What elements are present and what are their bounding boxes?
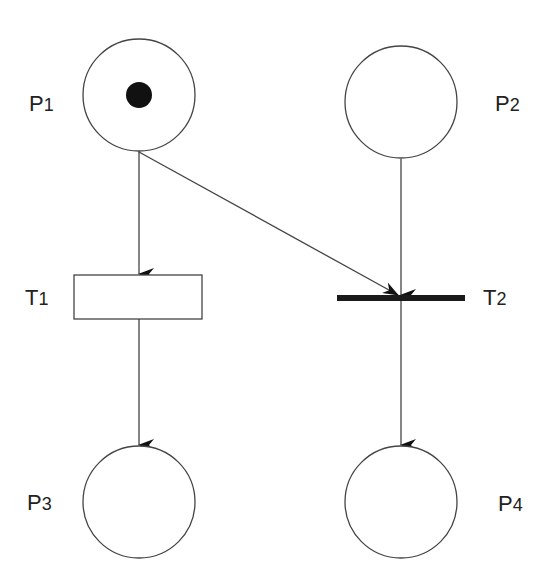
- place-p3[interactable]: [83, 446, 195, 558]
- token-icon: [126, 82, 152, 108]
- petri-net-diagram: P1 P2 T1 T2 P3 P4: [0, 0, 551, 582]
- place-p2[interactable]: [345, 46, 457, 158]
- place-p1[interactable]: [83, 39, 195, 151]
- label-p2: P2: [495, 91, 520, 116]
- place-p4[interactable]: [345, 446, 457, 558]
- transition-t1[interactable]: [74, 275, 202, 319]
- arc-p1-t2: [139, 152, 398, 295]
- label-t1: T1: [25, 285, 48, 310]
- transition-t2[interactable]: [337, 295, 465, 301]
- label-p3: P3: [27, 490, 52, 515]
- label-p1: P1: [29, 91, 54, 116]
- label-p4: P4: [498, 491, 523, 516]
- label-t2: T2: [483, 285, 506, 310]
